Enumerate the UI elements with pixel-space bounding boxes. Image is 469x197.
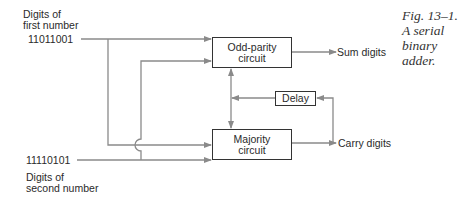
majority-circuit-block: Majority circuit [212,129,292,160]
figure-caption: Fig. 13–1. A serial binary adder. [402,8,458,68]
first-number-label-line2: first number [23,20,78,31]
carry-digits-label: Carry digits [338,138,391,149]
sum-digits-label: Sum digits [337,47,386,58]
majority-label-line2: circuit [234,145,271,156]
caption-line1: Fig. 13–1. [402,8,458,23]
carry-feedback-line [317,98,333,143]
odd-parity-circuit-block: Odd-parity circuit [212,37,292,68]
second-number-label-line2: second number [26,183,98,194]
second-number-value: 11110101 [26,155,70,166]
first-number-to-majority-line [108,39,211,145]
first-number-value: 11011001 [28,34,73,45]
delay-label: Delay [282,93,309,104]
caption-line2: A serial [402,23,458,38]
delay-block: Delay [275,91,316,106]
serial-binary-adder-diagram: Digits of first number 11011001 11110101… [0,0,469,197]
majority-label-line1: Majority [234,134,271,145]
caption-line4: adder. [402,53,458,68]
odd-parity-label-line2: circuit [227,53,276,64]
odd-parity-label-line1: Odd-parity [227,42,276,53]
caption-line3: binary [402,38,458,53]
